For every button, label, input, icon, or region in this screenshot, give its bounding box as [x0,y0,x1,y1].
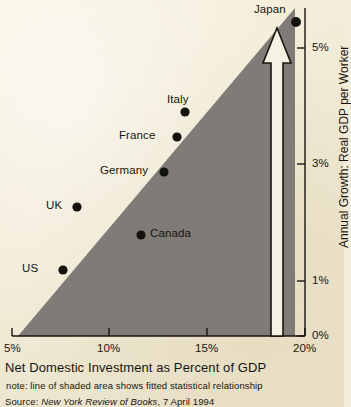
chart-source: Source: New York Review of Books, 7 Apri… [5,396,214,407]
point-label-germany: Germany [100,164,148,176]
point-label-japan: Japan [254,3,286,15]
point-dot-us [58,265,67,274]
y-axis-ticks [297,48,305,336]
point-label-france: France [119,129,155,141]
y-tick-label-5: 5% [312,41,329,53]
y-tick-label-0: 0% [312,329,329,341]
point-label-canada: Canada [150,227,191,239]
point-label-uk: UK [46,199,62,211]
point-dot-uk [72,202,81,211]
shaded-region [18,8,295,336]
x-tick-label-20: 20% [293,342,316,354]
source-publication: New York Review of Books [41,396,157,407]
y-tick-label-1: 1% [312,274,329,286]
point-dot-italy [180,107,189,116]
x-tick-label-15: 15% [195,342,218,354]
x-axis-title: Net Domestic Investment as Percent of GD… [5,360,266,375]
point-label-us: US [22,262,38,274]
y-tick-label-3: 3% [312,157,329,169]
x-tick-label-5: 5% [4,342,21,354]
y-axis-title: Annual Growth: Real GDP per Worker [337,46,351,248]
source-prefix: Source: [5,396,41,407]
point-dot-france [172,132,181,141]
chart-note: note: line of shaded area shows fitted s… [6,380,263,391]
x-tick-label-10: 10% [97,342,120,354]
point-dot-japan [291,17,301,27]
point-dot-germany [159,167,168,176]
point-dot-canada [136,230,145,239]
source-suffix: , 7 April 1994 [157,396,214,407]
point-label-italy: Italy [167,93,189,105]
